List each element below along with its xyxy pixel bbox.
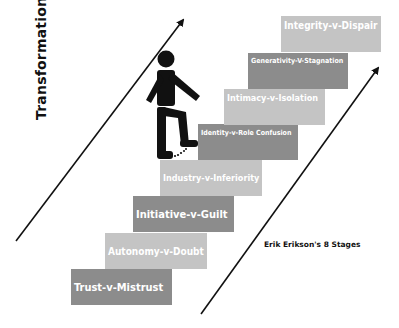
person-climbing-stairs-icon xyxy=(0,0,399,328)
diagram-caption: Erik Erikson's 8 Stages xyxy=(264,240,361,249)
